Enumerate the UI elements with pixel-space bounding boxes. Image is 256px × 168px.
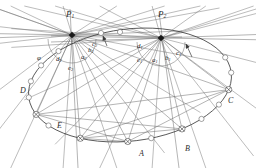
vertex-label-D: D (20, 87, 26, 95)
vertex-label-E: E (57, 122, 62, 130)
angle-label-c1: c1 (176, 50, 181, 57)
hub-label-P2: P2 (158, 10, 166, 20)
angle-label-c2: c2 (92, 41, 97, 48)
angle-label-d1-subscript: 1 (141, 45, 143, 50)
angle-label-b1-subscript: 1 (169, 57, 171, 62)
vertex-label-A: A (139, 150, 144, 158)
angle-label-e2: e2 (68, 65, 73, 72)
ray-P1-11 (72, 35, 165, 153)
boundary-marker (26, 95, 31, 100)
angle-label-b1: b1 (165, 55, 171, 62)
ray-P2-5 (161, 6, 206, 38)
boundary-marker (223, 55, 228, 60)
ray-P1-13 (63, 35, 72, 168)
ray-P2-3 (100, 6, 161, 38)
chord-DC (36, 90, 229, 115)
angle-label-d1: d1 (137, 43, 143, 50)
ray-P1-5 (72, 6, 117, 35)
boundary-marker (229, 70, 234, 75)
hub-label-P2-subscript: 2 (164, 13, 167, 19)
boundary-marker (117, 29, 122, 34)
hub-label-P1-subscript: 1 (72, 13, 75, 19)
vertex-label-C: C (228, 97, 233, 105)
angle-label-d2: d2 (56, 56, 62, 63)
angle-label-phi: φ (37, 55, 41, 62)
vertex-label-A-base: A (139, 149, 144, 158)
angle-label-c2-subscript: 2 (95, 43, 97, 48)
boundary-marker (56, 49, 61, 54)
angle-label-a2: a2 (81, 54, 87, 61)
boundary-marker (28, 79, 33, 84)
vertex-label-B: B (185, 145, 190, 153)
boundary-marker (98, 30, 103, 35)
boundary-marker (216, 102, 221, 107)
chord-P2-A (128, 38, 161, 142)
ray-P2-8 (161, 11, 256, 38)
angle-label-e1: e1 (137, 57, 142, 64)
angle-label-a1-subscript: 1 (156, 59, 158, 64)
chord-AC (128, 90, 229, 142)
boundary-marker (46, 123, 51, 128)
geometry-figure (0, 0, 256, 168)
angle-label-c1-subscript: 1 (179, 52, 181, 57)
angle-label-e1-subscript: 1 (140, 59, 142, 64)
angle-label-a2-subscript: 2 (85, 56, 87, 61)
angle-label-e2-subscript: 2 (71, 67, 73, 72)
boundary-marker (149, 136, 154, 141)
boundary-marker (39, 63, 44, 68)
hub-label-P1: P1 (66, 10, 74, 20)
ray-P2-6 (161, 6, 254, 38)
angle-label-b2-subscript: 2 (92, 49, 94, 54)
vertex-label-C-base: C (228, 96, 233, 105)
chord-P1-E (72, 35, 80, 138)
boundary-marker (199, 116, 204, 121)
angle-label-phi-base: φ (37, 54, 41, 62)
vertex-label-D-base: D (20, 86, 26, 95)
vertex-label-B-base: B (185, 144, 190, 153)
vertex-label-E-base: E (57, 121, 62, 130)
angle-label-d2-subscript: 2 (60, 58, 62, 63)
vertex-markers (33, 87, 232, 145)
angle-label-a1: a1 (152, 57, 158, 64)
